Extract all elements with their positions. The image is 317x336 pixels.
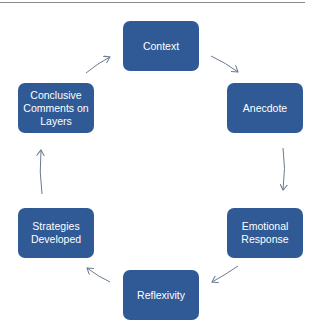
node-label: Context — [143, 40, 179, 53]
node-reflexivity: Reflexivity — [123, 270, 199, 320]
arrow-reflexivity-to-strategies — [87, 268, 110, 282]
arrow-conclusive-to-context — [86, 57, 110, 73]
node-anecdote: Anecdote — [227, 83, 303, 133]
node-label: Reflexivity — [137, 289, 185, 302]
arrow-context-to-anecdote — [211, 56, 238, 72]
node-context: Context — [123, 21, 199, 71]
node-label: Anecdote — [243, 102, 287, 115]
node-emotional-response: Emotional Response — [227, 208, 303, 258]
node-label: Conclusive Comments on Layers — [20, 89, 92, 128]
arrow-emotional-to-reflexivity — [212, 266, 238, 282]
arrow-anecdote-to-emotional — [283, 148, 285, 190]
node-label: Strategies Developed — [20, 220, 92, 246]
node-conclusive-comments: Conclusive Comments on Layers — [18, 83, 94, 133]
node-label: Emotional Response — [229, 220, 301, 246]
node-strategies-developed: Strategies Developed — [18, 208, 94, 258]
arrow-strategies-to-conclusive — [40, 150, 42, 194]
